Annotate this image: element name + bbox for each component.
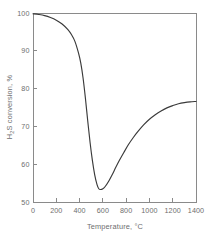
x-tick-label-1200: 1200 [165, 206, 181, 215]
y-axis-title-text: H2S conversion, % [5, 75, 15, 140]
chart-figure: 0200400600800100012001400 5060708090100 … [0, 0, 211, 235]
chart-background [0, 0, 211, 235]
x-tick-label-1000: 1000 [141, 206, 157, 215]
x-tick-label-400: 400 [73, 206, 85, 215]
x-tick-label-200: 200 [50, 206, 62, 215]
y-tick-label-90: 90 [21, 46, 29, 55]
x-tick-label-800: 800 [120, 206, 132, 215]
x-tick-label-0: 0 [31, 206, 35, 215]
y-tick-label-60: 60 [21, 160, 29, 169]
x-tick-label-1400: 1400 [188, 206, 204, 215]
x-axis-title: Temperature, °C [87, 222, 144, 231]
y-tick-label-50: 50 [21, 198, 29, 207]
x-tick-label-600: 600 [97, 206, 109, 215]
y-tick-label-70: 70 [21, 122, 29, 131]
y-tick-label-80: 80 [21, 84, 29, 93]
chart-svg: 0200400600800100012001400 5060708090100 … [0, 0, 211, 235]
y-tick-label-100: 100 [17, 9, 29, 18]
y-axis-title: H2S conversion, % [5, 75, 15, 140]
